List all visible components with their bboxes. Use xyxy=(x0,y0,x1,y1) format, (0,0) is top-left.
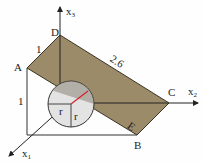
length-ad-label: 1 xyxy=(36,44,42,55)
diagram-svg xyxy=(0,0,202,163)
point-b-label: B xyxy=(134,140,141,151)
sphere-plane-diagram: A D C B E 1 2.6 1 r r x3 x2 x1 xyxy=(0,0,202,163)
radius-label-2: r xyxy=(74,111,78,122)
x3-axis-label: x3 xyxy=(66,6,75,19)
point-a-label: A xyxy=(14,62,22,73)
point-c-label: C xyxy=(168,87,175,98)
height-label: 1 xyxy=(18,96,24,107)
x2-axis-label: x2 xyxy=(188,86,197,99)
point-d-label: D xyxy=(51,27,59,38)
x1-axis-label: x1 xyxy=(22,148,31,161)
radius-label-1: r xyxy=(59,106,63,117)
